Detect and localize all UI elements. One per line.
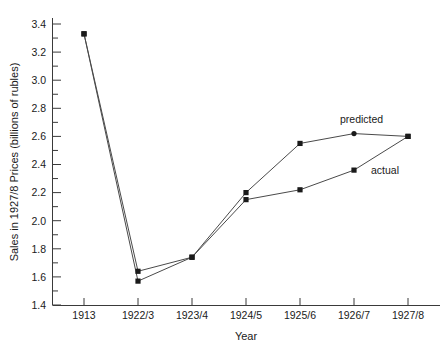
data-point [297, 141, 302, 146]
data-point [297, 187, 302, 192]
y-tick-label: 2.6 [31, 130, 46, 142]
y-tick-label: 1.4 [31, 299, 46, 311]
y-tick-label: 3.2 [31, 46, 46, 58]
data-point [135, 279, 140, 284]
y-axis-tick-labels: 1.4 1.6 1.8 2.0 2.2 2.4 2.6 2.8 3.0 3.2 … [31, 18, 46, 311]
data-series-group [81, 31, 410, 283]
data-point [243, 190, 248, 195]
line-chart: 1.4 1.6 1.8 2.0 2.2 2.4 2.6 2.8 3.0 3.2 … [0, 0, 444, 345]
series-label-predicted: predicted [340, 113, 383, 125]
data-point [135, 269, 140, 274]
chart-container: 1.4 1.6 1.8 2.0 2.2 2.4 2.6 2.8 3.0 3.2 … [0, 0, 444, 345]
x-axis-tick-labels: 1913 1922/3 1923/4 1924/5 1925/6 1926/7 … [72, 309, 424, 321]
x-tick-label: 1922/3 [122, 309, 154, 321]
axis-lines [53, 18, 441, 306]
x-tick-label: 1913 [72, 309, 96, 321]
y-tick-label: 2.4 [31, 158, 46, 170]
data-point [405, 134, 410, 139]
data-point [189, 255, 194, 260]
series-line-actual [84, 34, 408, 281]
x-axis-title: Year [235, 330, 258, 342]
y-tick-label: 3.0 [31, 74, 46, 86]
y-tick-label: 2.0 [31, 215, 46, 227]
x-tick-label: 1927/8 [392, 309, 424, 321]
y-tick-label: 1.8 [31, 243, 46, 255]
x-axis-ticks [84, 298, 408, 305]
y-tick-label: 2.8 [31, 102, 46, 114]
y-tick-label: 2.2 [31, 186, 46, 198]
y-tick-label: 1.6 [31, 271, 46, 283]
data-point [351, 131, 356, 136]
y-axis-title: Sales in 1927/8 Prices (billions of rubl… [8, 63, 20, 262]
x-tick-label: 1925/6 [284, 309, 316, 321]
data-point [351, 168, 356, 173]
y-tick-label: 3.4 [31, 18, 46, 30]
data-point [81, 31, 86, 36]
data-point [243, 197, 248, 202]
series-label-actual: actual [371, 164, 399, 176]
series-line-predicted [84, 34, 408, 271]
x-tick-label: 1924/5 [230, 309, 262, 321]
x-tick-label: 1926/7 [338, 309, 370, 321]
x-tick-label: 1923/4 [176, 309, 208, 321]
